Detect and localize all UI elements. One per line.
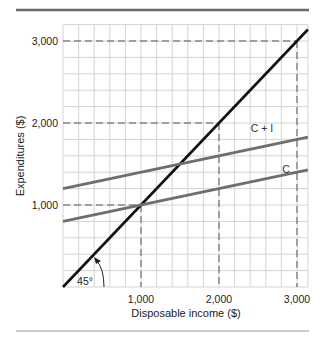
series-line-c-i xyxy=(63,137,308,188)
chart: C + IC 45° 1,0002,0003,0001,0002,0003,00… xyxy=(0,0,327,342)
x-axis-title: Disposable income ($) xyxy=(131,307,240,319)
series-label-c-plus-i: C + I xyxy=(251,122,273,134)
angle-annotation: 45° xyxy=(77,257,104,287)
x-tick-label: 2,000 xyxy=(206,293,232,305)
x-tick-label: 3,000 xyxy=(284,293,310,305)
x-tick-label: 1,000 xyxy=(128,293,154,305)
y-tick-label: 3,000 xyxy=(32,35,58,47)
series-line-45-degree xyxy=(63,30,308,287)
tick-labels: 1,0002,0003,0001,0002,0003,000 xyxy=(32,35,311,305)
angle-label: 45° xyxy=(77,275,93,287)
y-tick-label: 2,000 xyxy=(32,117,58,129)
y-tick-label: 1,000 xyxy=(32,199,58,211)
y-axis-title: Expenditures ($) xyxy=(14,116,26,197)
series-line-c xyxy=(63,170,308,221)
series-lines: C + IC xyxy=(63,30,308,287)
arrowhead-icon xyxy=(94,257,101,264)
series-label-c: C xyxy=(282,163,290,175)
angle-arc xyxy=(96,260,104,287)
